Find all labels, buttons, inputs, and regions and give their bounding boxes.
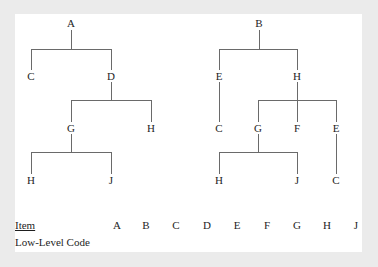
node-h: H <box>292 70 302 82</box>
node-c: C <box>331 174 340 186</box>
node-d: D <box>106 70 116 82</box>
node-g: G <box>253 122 263 134</box>
node-h: H <box>146 122 156 134</box>
item-e: E <box>234 219 241 231</box>
node-e: E <box>215 70 224 82</box>
item-a: A <box>113 219 121 231</box>
tree-connectors <box>0 0 378 267</box>
node-f: F <box>293 122 301 134</box>
item-f: F <box>264 219 270 231</box>
node-a: A <box>66 17 76 29</box>
node-j: J <box>108 174 114 186</box>
item-d: D <box>203 219 211 231</box>
item-b: B <box>142 219 149 231</box>
node-h: H <box>26 174 36 186</box>
item-j: J <box>354 219 358 231</box>
node-e: E <box>332 122 341 134</box>
node-h: H <box>214 174 224 186</box>
item-row-label: Item <box>15 219 35 231</box>
node-c: C <box>26 70 35 82</box>
low-level-code-label: Low-Level Code <box>15 236 90 248</box>
item-c: C <box>172 219 179 231</box>
item-h: H <box>323 219 331 231</box>
node-j: J <box>294 174 300 186</box>
node-c: C <box>214 122 223 134</box>
node-g: G <box>66 122 76 134</box>
item-g: G <box>293 219 301 231</box>
node-b: B <box>254 17 263 29</box>
